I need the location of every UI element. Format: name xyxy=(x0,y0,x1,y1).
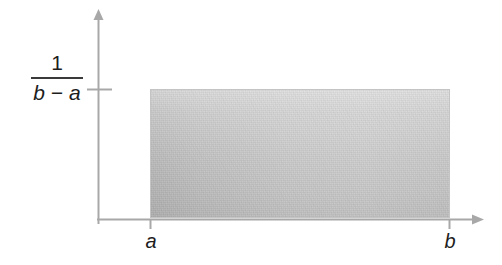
x-axis-arrowhead xyxy=(472,215,484,225)
x-axis-label-a: a xyxy=(138,231,164,251)
y-axis-value-label: 1 b − a xyxy=(26,52,88,103)
y-axis-arrowhead xyxy=(94,9,104,20)
x-axis-label-b: b xyxy=(437,231,463,251)
uniform-distribution-figure: 1 b − a a b xyxy=(0,0,502,265)
shaded-density-region xyxy=(150,89,450,218)
y-axis-value-denominator: b − a xyxy=(26,79,88,103)
y-axis-value-numerator: 1 xyxy=(26,52,88,77)
